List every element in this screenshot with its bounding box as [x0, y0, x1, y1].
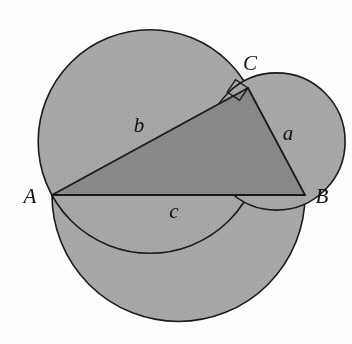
vertex-label-B: B [316, 184, 329, 208]
diagram-root: A B C a b c [0, 0, 352, 344]
pythagorean-circles-figure: A B C a b c [0, 0, 352, 344]
vertex-label-A: A [22, 184, 37, 208]
side-label-a: a [283, 121, 294, 145]
side-label-b: b [134, 113, 145, 137]
vertex-label-C: C [243, 51, 258, 75]
side-label-c: c [169, 199, 179, 223]
